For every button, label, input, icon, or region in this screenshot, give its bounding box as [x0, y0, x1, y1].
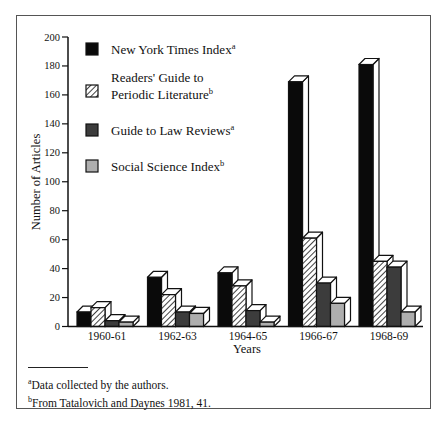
bar-guide-to-law-reviews	[387, 267, 401, 326]
y-tick-label: 180	[44, 60, 60, 71]
legend-swatch	[86, 160, 98, 172]
bar-guide-to-law-reviews	[246, 311, 260, 327]
footnote-mark: a	[231, 122, 235, 132]
footnote-text: From Tatalovich and Daynes 1981, 41.	[32, 397, 211, 409]
footnote-b: bFrom Tatalovich and Daynes 1981, 41.	[28, 395, 211, 409]
x-tick-label: 1964-65	[229, 330, 268, 342]
legend-item: New York Times Indexa	[86, 41, 236, 57]
y-axis-title: Number of Articles	[29, 134, 43, 231]
y-tick-label: 20	[50, 292, 61, 303]
legend-label: Readers' Guide to	[111, 70, 204, 85]
x-tick-label: 1966-67	[299, 330, 338, 342]
legend-swatch	[86, 85, 98, 97]
legend-label: Guide to Law Reviewsa	[111, 122, 235, 138]
bar-readers-guide-to-periodic-literature	[303, 238, 317, 326]
bar-chart: 020406080100120140160180200 1960-611962-…	[0, 0, 448, 427]
footnote-mark: b	[209, 86, 213, 96]
footnote-text: Data collected by the authors.	[32, 379, 169, 391]
x-axis: 1960-611962-631964-651966-671968-69	[68, 327, 423, 343]
bar-readers-guide-to-periodic-literature	[373, 261, 387, 326]
footnote-mark: a	[232, 41, 236, 51]
footnote-mark: b	[220, 158, 224, 168]
y-tick-label: 0	[55, 321, 60, 332]
y-tick-label: 100	[44, 176, 60, 187]
y-tick-label: 140	[44, 118, 60, 129]
bar-group-1966-67	[289, 76, 351, 327]
bar-readers-guide-to-periodic-literature	[91, 308, 105, 327]
bar-guide-to-law-reviews	[317, 283, 331, 326]
legend-label: New York Times Indexa	[111, 41, 236, 57]
bar-social-science-index	[401, 312, 415, 326]
y-axis: 020406080100120140160180200	[44, 32, 68, 333]
legend-label: Social Science Indexb	[111, 158, 224, 174]
bar-group-1960-61	[77, 302, 139, 327]
y-tick-label: 120	[44, 147, 60, 158]
y-tick-label: 200	[44, 32, 60, 43]
bar-new-york-times-index	[359, 65, 373, 327]
y-tick-label: 40	[50, 263, 61, 274]
legend-swatch	[86, 124, 98, 136]
bar-social-science-index	[190, 313, 204, 326]
bar-guide-to-law-reviews	[176, 312, 190, 326]
legend-item: Social Science Indexb	[86, 158, 224, 174]
bar-new-york-times-index	[77, 312, 91, 326]
y-tick-label: 80	[50, 205, 61, 216]
legend-label: Periodic Literatureb	[111, 86, 213, 102]
bar-readers-guide-to-periodic-literature	[162, 295, 176, 327]
bar-new-york-times-index	[289, 82, 303, 327]
x-axis-title: Years	[233, 342, 261, 356]
legend-swatch	[86, 43, 98, 55]
bar-new-york-times-index	[148, 277, 162, 326]
x-tick-label: 1968-69	[370, 330, 409, 342]
footnote-rule	[28, 367, 88, 368]
legend-item: Readers' Guide toPeriodic Literatureb	[86, 70, 213, 102]
bar-social-science-index	[331, 303, 345, 326]
bar-group-1962-63	[148, 271, 210, 326]
x-tick-label: 1962-63	[158, 330, 197, 342]
legend: New York Times IndexaReaders' Guide toPe…	[86, 41, 236, 174]
x-tick-label: 1960-61	[88, 330, 127, 342]
y-tick-label: 160	[44, 89, 60, 100]
bar-guide-to-law-reviews	[105, 321, 119, 327]
legend-item: Guide to Law Reviewsa	[86, 122, 235, 138]
footnote-a: aData collected by the authors.	[28, 377, 169, 391]
bar-new-york-times-index	[218, 273, 232, 327]
bar-group-1964-65	[218, 267, 280, 327]
bar-readers-guide-to-periodic-literature	[232, 286, 246, 327]
y-tick-label: 60	[50, 234, 61, 245]
bar-group-1968-69	[359, 59, 421, 327]
